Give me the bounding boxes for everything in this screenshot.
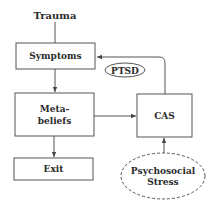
ptsd-label: PTSD — [111, 66, 139, 76]
cas-label: CAS — [154, 111, 175, 121]
metabeliefs-node: Meta- beliefs — [15, 93, 94, 136]
stress-label-line2: Stress — [147, 177, 178, 187]
symptoms-node: Symptoms — [16, 43, 95, 69]
metabeliefs-label-line1: Meta- — [40, 104, 70, 114]
trauma-label: Trauma — [34, 10, 77, 21]
cas-node: CAS — [137, 94, 192, 137]
ptsd-node: PTSD — [105, 63, 145, 77]
psychosocial-stress-node: Psychosocial Stress — [121, 153, 205, 199]
diagram-canvas: Trauma Symptoms Meta- beliefs Exit CAS P… — [0, 0, 216, 208]
exit-label: Exit — [44, 164, 65, 174]
stress-label-line1: Psychosocial — [131, 166, 196, 176]
metabeliefs-label-line2: beliefs — [38, 116, 72, 126]
symptoms-label: Symptoms — [29, 51, 81, 61]
exit-node: Exit — [14, 158, 93, 180]
